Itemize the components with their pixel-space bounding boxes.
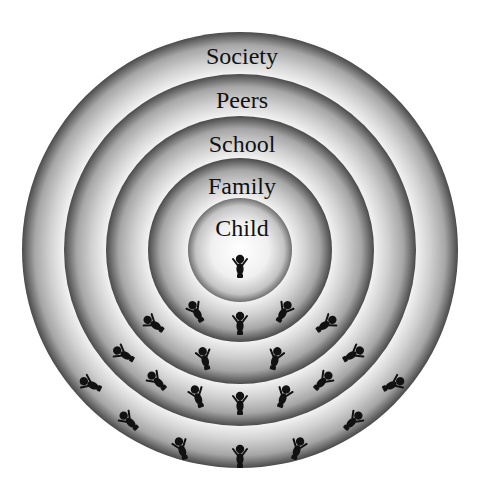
ecological-systems-diagram: Society Peers School Family Child: [0, 0, 484, 502]
label-peers: Peers: [0, 88, 484, 112]
label-school: School: [0, 132, 484, 156]
label-family: Family: [0, 174, 484, 198]
ring-child: [188, 198, 292, 302]
concentric-rings: [0, 0, 484, 502]
label-society: Society: [0, 44, 484, 68]
label-child: Child: [0, 216, 484, 240]
